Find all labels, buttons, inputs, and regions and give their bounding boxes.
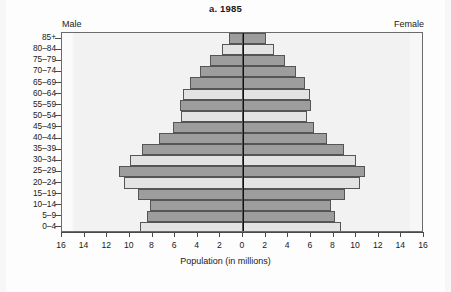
age-label-70-74: 70–74	[22, 65, 56, 75]
y-axis-tick	[55, 193, 61, 194]
x-axis-tick	[129, 232, 130, 237]
bar-male-70-74	[200, 66, 243, 77]
age-group-axis: 0–45–910–1415–1920–2425–2930–3435–3940–4…	[16, 32, 56, 232]
x-axis-tick	[378, 232, 379, 237]
y-axis-tick	[55, 38, 61, 39]
age-label-80-84: 80–84	[22, 43, 56, 53]
pyramid-row	[62, 89, 422, 100]
x-axis-tick	[242, 232, 243, 237]
bar-female-15-19	[243, 189, 345, 200]
x-axis-tick-label: 14	[72, 240, 96, 250]
x-axis-title: Population (in millions)	[0, 256, 451, 266]
y-axis-tick	[55, 171, 61, 172]
x-axis-tick-label: 8	[140, 240, 164, 250]
y-axis-tick	[55, 115, 61, 116]
age-label-10-14: 10–14	[22, 199, 56, 209]
bar-male-75-79	[210, 55, 243, 66]
center-axis-line	[243, 33, 244, 231]
pyramid-row	[62, 211, 422, 222]
x-axis-tick-label: 6	[298, 240, 322, 250]
age-label-25-29: 25–29	[22, 165, 56, 175]
bar-female-85+	[243, 33, 266, 44]
y-axis-tick	[55, 71, 61, 72]
pyramid-row	[62, 33, 422, 44]
pyramid-row	[62, 166, 422, 177]
pyramid-row	[62, 189, 422, 200]
x-axis-tick-label: 2	[207, 240, 231, 250]
bar-male-35-39	[142, 144, 243, 155]
x-axis-tick-label: 16	[49, 240, 73, 250]
y-axis-tick	[55, 138, 61, 139]
page-edge-left	[0, 0, 6, 292]
bar-female-50-54	[243, 111, 307, 122]
bar-male-30-34	[130, 155, 243, 166]
y-axis-tick	[55, 182, 61, 183]
bar-male-65-69	[190, 77, 243, 88]
y-axis-tick	[55, 93, 61, 94]
x-axis-tick	[197, 232, 198, 237]
age-label-20-24: 20–24	[22, 177, 56, 187]
bar-male-15-19	[138, 189, 243, 200]
y-axis-tick	[55, 226, 61, 227]
bar-female-65-69	[243, 77, 305, 88]
x-axis-tick-label: 10	[343, 240, 367, 250]
age-label-85+: 85+	[22, 32, 56, 42]
pyramid-row	[62, 100, 422, 111]
x-axis-tick	[84, 232, 85, 237]
x-axis-tick	[61, 232, 62, 237]
bar-female-40-44	[243, 133, 327, 144]
x-axis-tick-label: 0	[230, 240, 254, 250]
age-label-40-44: 40–44	[22, 132, 56, 142]
y-axis-tick	[55, 204, 61, 205]
x-axis-tick-label: 12	[366, 240, 390, 250]
y-axis-tick	[55, 60, 61, 61]
bar-female-80-84	[243, 44, 274, 55]
y-axis-tick	[55, 215, 61, 216]
age-label-0-4: 0–4	[22, 221, 56, 231]
bar-male-25-29	[119, 166, 243, 177]
pyramid-row	[62, 122, 422, 133]
x-axis-tick-label: 10	[117, 240, 141, 250]
x-axis-tick-label: 12	[94, 240, 118, 250]
age-label-5-9: 5–9	[22, 210, 56, 220]
bar-female-75-79	[243, 55, 285, 66]
population-pyramid-figure: a. 1985 Male Female 0–45–910–1415–1920–2…	[0, 0, 451, 292]
bar-female-30-34	[243, 155, 356, 166]
y-axis-tick	[55, 49, 61, 50]
bar-female-70-74	[243, 66, 296, 77]
age-label-55-59: 55–59	[22, 99, 56, 109]
male-group-label: Male	[62, 19, 82, 29]
pyramid-row	[62, 144, 422, 155]
x-axis-tick	[400, 232, 401, 237]
pyramid-row	[62, 155, 422, 166]
x-axis-tick-label: 4	[275, 240, 299, 250]
bar-female-10-14	[243, 200, 331, 211]
y-axis-tick	[55, 126, 61, 127]
bar-male-0-4	[140, 222, 243, 232]
y-axis-tick	[55, 82, 61, 83]
pyramid-row	[62, 222, 422, 232]
x-axis-tick-label: 6	[162, 240, 186, 250]
bar-male-45-49	[173, 122, 243, 133]
age-label-35-39: 35–39	[22, 143, 56, 153]
bar-female-45-49	[243, 122, 314, 133]
x-axis-tick	[355, 232, 356, 237]
x-axis-tick-label: 14	[388, 240, 412, 250]
bar-male-50-54	[181, 111, 243, 122]
plot-area	[61, 32, 423, 232]
x-axis-tick-label: 2	[253, 240, 277, 250]
y-axis-tick	[55, 149, 61, 150]
bar-male-85+	[229, 33, 243, 44]
y-axis-tick	[55, 160, 61, 161]
pyramid-row	[62, 77, 422, 88]
pyramid-row	[62, 66, 422, 77]
x-axis-tick	[152, 232, 153, 237]
bar-female-25-29	[243, 166, 365, 177]
bar-male-5-9	[147, 211, 243, 222]
pyramid-row	[62, 44, 422, 55]
x-axis-tick	[310, 232, 311, 237]
pyramid-row	[62, 200, 422, 211]
age-label-45-49: 45–49	[22, 121, 56, 131]
x-axis-tick-label: 4	[185, 240, 209, 250]
x-axis-tick-label: 16	[411, 240, 435, 250]
